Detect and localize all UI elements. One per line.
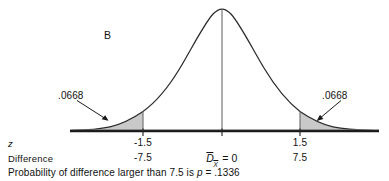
right-tail-leader-arrow	[317, 101, 341, 121]
caption-text-tail: = .1336	[203, 167, 240, 178]
normal-distribution-figure: B .0668 .0668 z Difference -1.5 1.5 -7.5…	[0, 0, 389, 181]
mean-value-label: DX = 0	[206, 152, 237, 166]
mean-equals-value: = 0	[219, 152, 238, 164]
z-tick-negative: -1.5	[134, 138, 152, 148]
difference-tick-positive: 7.5	[293, 153, 308, 163]
left-tail-probability-label: .0668	[58, 91, 84, 101]
z-tick-positive: 1.5	[293, 138, 308, 148]
difference-tick-negative: -7.5	[134, 153, 152, 163]
figure-caption: Probability of difference larger than 7.…	[8, 168, 240, 178]
caption-text-lead: Probability of difference larger than 7.…	[8, 167, 197, 178]
z-row-label: z	[8, 139, 13, 149]
panel-label: B	[104, 30, 111, 41]
right-tail-probability-label: .0668	[322, 91, 348, 101]
left-tail-leader-arrow	[77, 101, 109, 121]
difference-row-label: Difference	[8, 154, 53, 164]
